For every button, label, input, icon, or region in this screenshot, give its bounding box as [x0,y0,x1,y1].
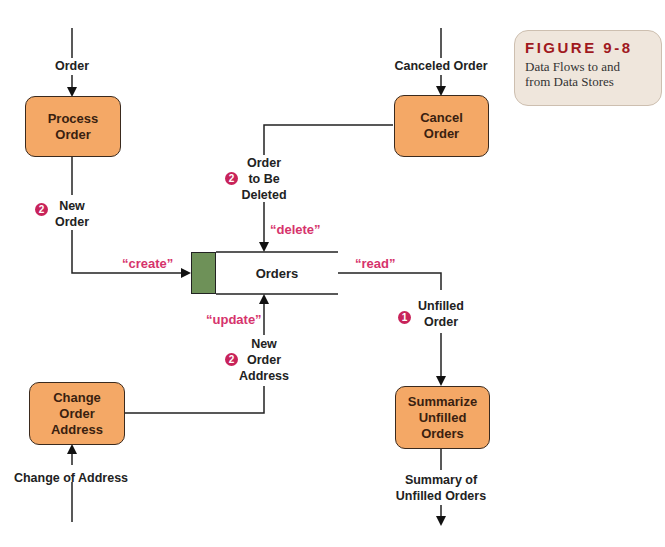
process-summarize-unfilled-orders: Summarize Unfilled Orders [395,386,490,449]
data-store-id [191,252,216,294]
flow-label-summary-of-unfilled-orders: Summary of Unfilled Orders [386,472,496,504]
figure-caption-box: FIGURE 9-8 Data Flows to and from Data S… [514,30,662,106]
flow-label-new-order: New Order [42,198,102,230]
flow-label-order: Order [40,58,104,74]
badge-unfilled-order: 1 [398,311,411,324]
flow-label-new-order-address: New Order Address [228,336,300,384]
figure-title: FIGURE 9-8 [525,39,651,56]
operation-create: “create” [122,256,173,271]
process-cancel-order: Cancel Order [394,95,489,157]
operation-delete: “delete” [270,222,321,237]
badge-new-order: 2 [35,203,48,216]
data-store-orders: Orders [216,252,338,294]
figure-caption: Data Flows to and from Data Stores [525,59,651,89]
flow-label-order-to-be-deleted: Order to Be Deleted [229,155,299,203]
process-order: Process Order [25,96,121,157]
flow-label-change-of-address: Change of Address [6,470,136,486]
badge-order-to-be-deleted: 2 [225,172,238,185]
flow-label-canceled-order: Canceled Order [380,58,502,74]
process-change-order-address: Change Order Address [29,382,125,445]
operation-update: “update” [206,312,262,327]
flow-label-unfilled-order: Unfilled Order [406,298,476,330]
badge-new-order-address: 2 [225,353,238,366]
operation-read: “read” [355,256,395,271]
